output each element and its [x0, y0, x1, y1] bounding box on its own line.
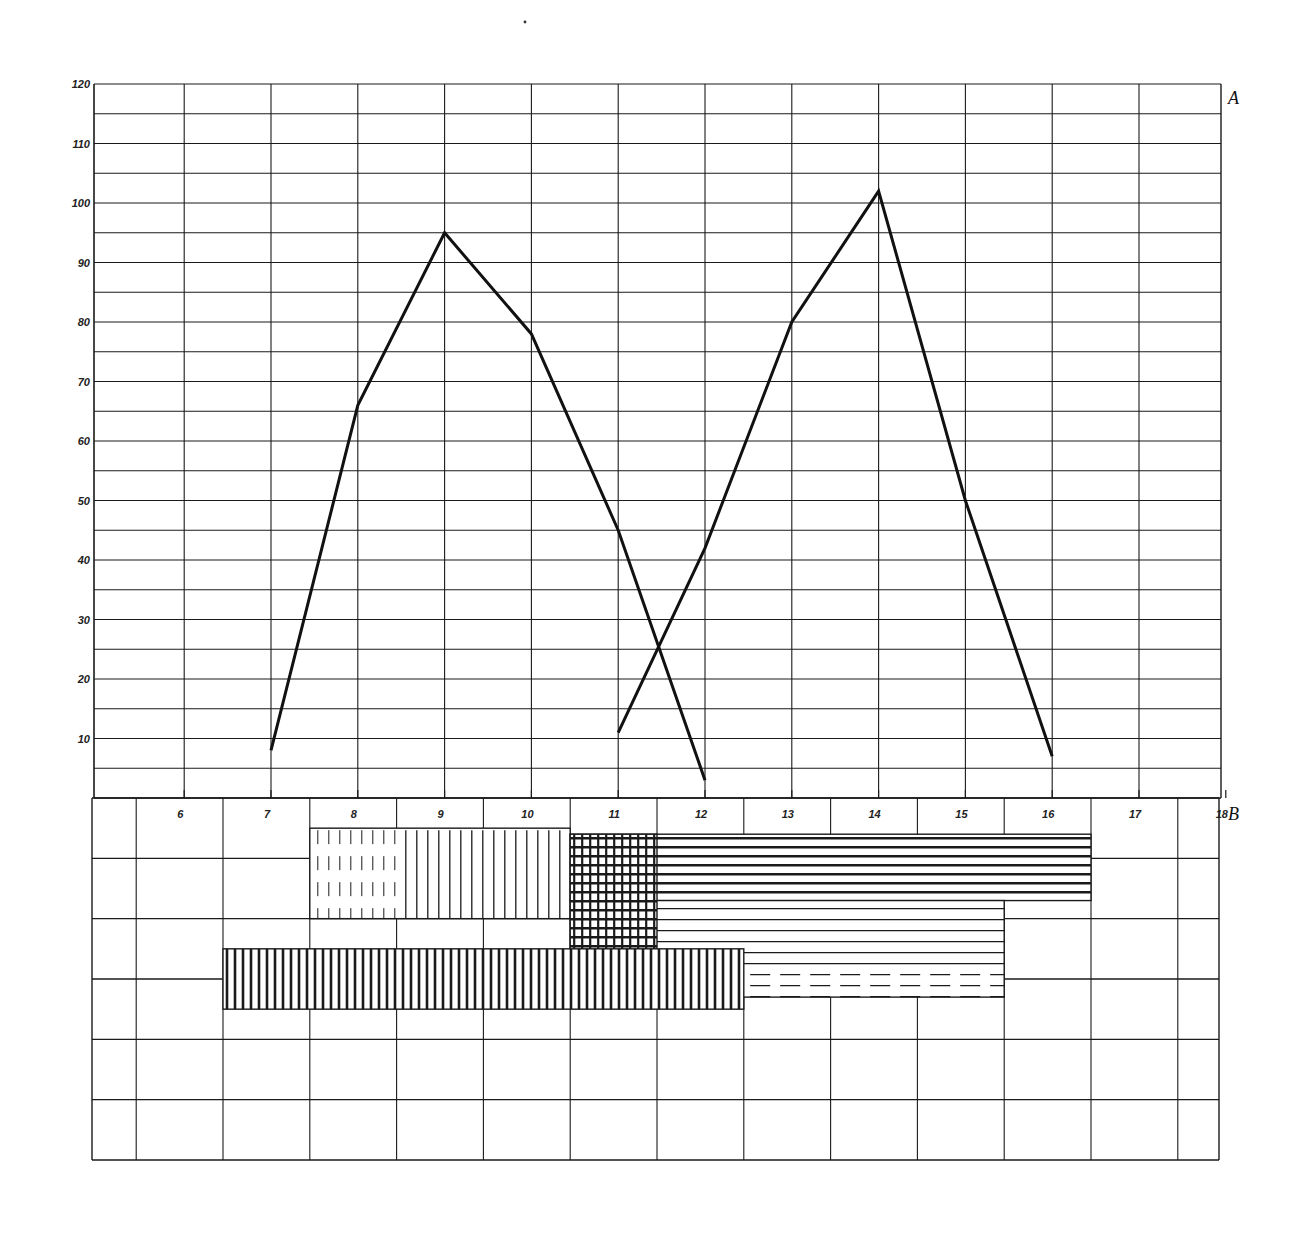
bar-upper-light-vertical-hatch: [310, 828, 570, 919]
x-tick-label: 7: [264, 808, 271, 820]
y-tick-label: 120: [72, 78, 91, 90]
axis-label-b: B: [1228, 804, 1239, 824]
x-tick-label: 11: [608, 808, 619, 820]
y-tick-label: 10: [78, 733, 91, 745]
x-tick-label: 15: [955, 808, 968, 820]
x-tick-label: 17: [1129, 808, 1142, 820]
series-curve-2: [618, 191, 1052, 756]
x-tick-label: 18: [1216, 808, 1229, 820]
y-axis-ticks: 102030405060708090100110120: [72, 78, 91, 745]
x-tick-label: 16: [1042, 808, 1055, 820]
x-tick-label: 9: [438, 808, 445, 820]
x-tick-label: 10: [521, 808, 534, 820]
y-tick-label: 110: [72, 138, 90, 150]
series-curve-1: [271, 233, 705, 780]
x-tick-label: 13: [782, 808, 794, 820]
y-tick-label: 30: [78, 614, 91, 626]
line-series: [271, 191, 1052, 780]
x-axis-ticks: 6789101112131415161718: [177, 790, 1229, 820]
x-tick-label: 12: [695, 808, 707, 820]
y-tick-label: 70: [78, 376, 91, 388]
axis-label-a: A: [1227, 88, 1240, 108]
chart-figure: 102030405060708090100110120 678910111213…: [0, 0, 1294, 1237]
x-tick-label: 14: [868, 808, 880, 820]
x-tick-label: 6: [177, 808, 184, 820]
y-tick-label: 20: [77, 673, 91, 685]
bar-lower-heavy-vertical-hatch: [223, 949, 744, 1009]
x-tick-label: 8: [351, 808, 358, 820]
y-tick-label: 50: [78, 495, 91, 507]
y-tick-label: 40: [77, 554, 91, 566]
stray-dot: [524, 21, 527, 24]
hatched-bars: [223, 828, 1091, 1009]
y-tick-label: 90: [78, 257, 91, 269]
line-chart-grid: [94, 84, 1221, 798]
y-tick-label: 80: [78, 316, 91, 328]
y-tick-label: 60: [78, 435, 91, 447]
y-tick-label: 100: [72, 197, 91, 209]
